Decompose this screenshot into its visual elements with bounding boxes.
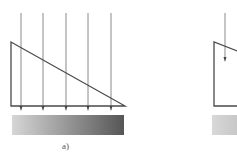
panel-label-a: a) [62, 141, 69, 151]
uniform-bar [212, 115, 237, 135]
gradient-bar [12, 115, 124, 135]
arrowhead [224, 57, 227, 62]
panel-b [212, 13, 237, 135]
wedge-shape [11, 42, 125, 106]
diagram-canvas [0, 0, 237, 160]
arrowheads [20, 106, 113, 111]
incident-rays [21, 13, 111, 107]
panel-a [11, 13, 125, 135]
